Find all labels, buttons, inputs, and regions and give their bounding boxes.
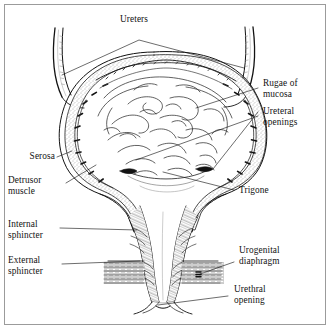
urethra (100, 194, 226, 302)
label-detrusor-muscle: Detrusor muscle (8, 175, 66, 196)
urogenital-diaphragm-right (179, 261, 224, 284)
label-urogenital-diaphragm: Urogenital diaphragm (239, 245, 309, 266)
label-serosa: Serosa (6, 151, 55, 162)
left-ureteral-opening (120, 169, 137, 174)
label-rugae-of-mucosa: Rugae of mucosa (263, 78, 329, 99)
diagram-ink (53, 27, 266, 314)
mucosal-rugae (98, 77, 232, 175)
label-internal-sphincter: Internal sphincter (8, 219, 66, 240)
urogenital-diaphragm-left (104, 261, 147, 284)
label-ureters: Ureters (98, 14, 170, 25)
label-urethral-opening: Urethral opening (234, 284, 300, 305)
right-ureteral-opening (196, 167, 213, 172)
label-trigone: Trigone (239, 185, 299, 196)
trigone-region (124, 170, 208, 192)
figure-root: Ureters Rugae of mucosa Ureteral opening… (0, 0, 332, 331)
label-external-sphincter: External sphincter (8, 255, 66, 276)
label-ureteral-openings: Ureteral openings (263, 106, 329, 127)
bladder-diagram (0, 0, 332, 331)
urethral-opening-region (134, 300, 192, 314)
